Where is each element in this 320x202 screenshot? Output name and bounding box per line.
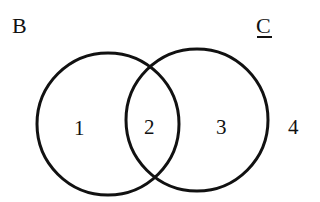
region-4-label: 4 — [288, 115, 299, 139]
set-b-label: B — [12, 13, 27, 38]
region-2-label: 2 — [144, 115, 155, 139]
venn-diagram: B C 1 2 3 4 — [0, 0, 320, 202]
set-b-circle — [37, 53, 179, 195]
set-c-label: C — [256, 13, 271, 38]
region-1-label: 1 — [74, 116, 85, 140]
region-3-label: 3 — [216, 115, 227, 139]
